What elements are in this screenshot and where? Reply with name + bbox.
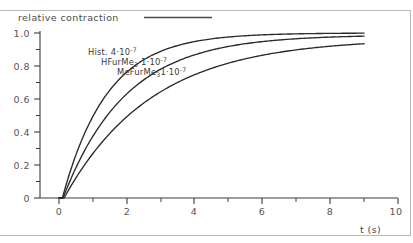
x-axis-title: t (s)	[360, 224, 381, 235]
curve-label-hfurme3-name: HFurMe	[101, 57, 134, 67]
y-tick-label-0-8: 0.8	[13, 61, 30, 72]
curve-labels: Hist. 4·10-7 HFurMe3 1·10-7 MeFurMe31·10…	[88, 46, 186, 79]
y-tick-label-1-0: 1.0	[13, 28, 30, 39]
y-axis-title: relative contraction	[18, 12, 119, 23]
x-tick-label-0: 0	[56, 206, 63, 217]
relative-contraction-chart: 1.0 0.8 0.6 0.4 0.2 0 0 2 4	[0, 0, 413, 243]
curve-label-mefurme3-name: MeFurMe	[117, 67, 156, 77]
x-tick-label-10: 10	[389, 206, 402, 217]
y-tick-label-0-4: 0.4	[13, 127, 30, 138]
x-axis-tick-labels: 0 2 4 6 8 10	[56, 206, 403, 217]
x-tick-label-8: 8	[327, 206, 334, 217]
x-tick-label-4: 4	[191, 206, 198, 217]
x-tick-label-2: 2	[124, 206, 131, 217]
curve-label-hist: Hist. 4·10-7	[88, 46, 137, 57]
x-tick-label-6: 6	[259, 206, 266, 217]
curve-label-hist-name: Hist. 4	[88, 47, 116, 57]
y-axis-tick-labels: 1.0 0.8 0.6 0.4 0.2 0	[13, 28, 30, 204]
chart-figure: 1.0 0.8 0.6 0.4 0.2 0 0 2 4	[0, 0, 413, 243]
y-tick-label-0-6: 0.6	[13, 94, 30, 105]
y-axis-minor-ticks	[36, 50, 40, 182]
x-axis-minor-ticks	[93, 198, 364, 202]
curve-label-mefurme3: MeFurMe31·10-7	[117, 66, 186, 79]
y-tick-label-0: 0	[23, 193, 30, 204]
y-tick-label-0-2: 0.2	[13, 160, 30, 171]
